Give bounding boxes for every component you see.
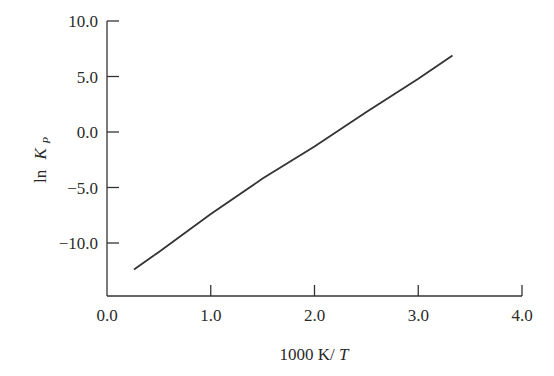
x-label-main: 1000 K/: [280, 345, 336, 364]
x-axis-label: 1000 K/ T: [280, 345, 351, 364]
x-tick-label: 3.0: [408, 306, 429, 325]
data-curve: [134, 55, 453, 269]
x-tick-label: 4.0: [511, 306, 532, 325]
y-ticks: 10.05.00.0−5.0−10.0: [59, 12, 119, 253]
y-tick-label: −5.0: [67, 179, 98, 198]
y-axis-label: ln K P: [31, 137, 52, 183]
axes: [107, 21, 522, 296]
y-tick-label: 10.0: [68, 12, 98, 31]
svg-text:ln K P: ln K P: [31, 137, 52, 183]
chart: 10.05.00.0−5.0−10.0 0.01.02.03.04.0 ln K…: [0, 0, 554, 376]
y-tick-label: 0.0: [77, 123, 98, 142]
x-tick-label: 1.0: [200, 306, 221, 325]
y-label-ln: ln: [31, 169, 50, 183]
y-label-subscript: P: [40, 137, 52, 145]
x-label-t: T: [339, 345, 350, 364]
y-tick-label: −10.0: [59, 234, 98, 253]
x-tick-label: 2.0: [304, 306, 325, 325]
y-tick-label: 5.0: [77, 68, 98, 87]
x-ticks: 0.01.02.03.04.0: [96, 285, 532, 325]
y-label-k: K: [31, 146, 50, 160]
x-tick-label: 0.0: [96, 306, 117, 325]
